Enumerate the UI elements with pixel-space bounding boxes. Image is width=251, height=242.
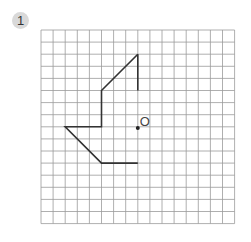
svg-text:O: O bbox=[140, 114, 150, 129]
grid-diagram: O bbox=[0, 0, 251, 242]
